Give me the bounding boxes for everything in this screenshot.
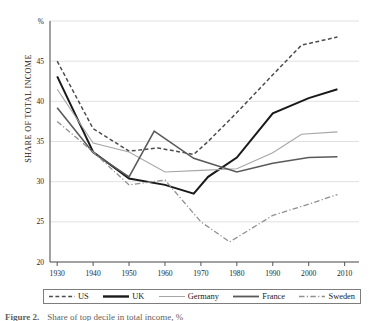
legend-item-sweden[interactable]: Sweden	[299, 292, 355, 301]
series-line-us	[57, 37, 337, 154]
gridlines-group	[50, 21, 359, 262]
figure-container: 202530354045%193019401950196019701980199…	[0, 0, 369, 321]
legend-swatch-germany	[159, 292, 185, 301]
legend-label-france: France	[262, 292, 285, 301]
x-tick-label: 1950	[121, 269, 136, 278]
ticks-group	[57, 262, 344, 266]
legend-swatch-us	[49, 292, 75, 301]
series-line-france	[57, 108, 337, 177]
legend-swatch-sweden	[299, 292, 325, 301]
legend-label-germany: Germany	[188, 292, 219, 301]
legend-item-france[interactable]: France	[233, 292, 285, 301]
x-tick-label: 1980	[229, 269, 244, 278]
y-tick-label: 45	[36, 57, 44, 66]
x-tick-label: 2010	[337, 269, 352, 278]
legend-label-us: US	[78, 292, 89, 301]
chart-svg: 202530354045%193019401950196019701980199…	[0, 0, 369, 285]
caption-label: Figure 2.	[5, 312, 39, 321]
legend-swatch-uk	[103, 292, 129, 301]
axis-labels-group: 202530354045%193019401950196019701980199…	[36, 17, 352, 278]
x-tick-label: 1990	[265, 269, 280, 278]
legend-item-germany[interactable]: Germany	[159, 292, 219, 301]
x-tick-label: 2000	[301, 269, 316, 278]
legend-swatch-france	[233, 292, 259, 301]
series-line-uk	[57, 76, 337, 193]
series-group	[57, 37, 337, 242]
legend-label-uk: UK	[132, 292, 144, 301]
x-tick-label: 1960	[157, 269, 172, 278]
caption-text: Share of top decile in total income, %	[47, 312, 183, 321]
legend-item-uk[interactable]: UK	[103, 292, 144, 301]
y-tick-label: 40	[36, 97, 44, 106]
x-tick-label: 1970	[193, 269, 208, 278]
y-tick-label: 30	[36, 177, 44, 186]
legend-label-sweden: Sweden	[328, 292, 355, 301]
chart-plot-area: 202530354045%193019401950196019701980199…	[0, 0, 369, 285]
x-tick-label: 1930	[50, 269, 65, 278]
y-tick-label: 20	[36, 258, 44, 267]
y-tick-label: 35	[36, 137, 44, 146]
x-tick-label: 1940	[86, 269, 101, 278]
y-axis-title: SHARE OF TOTAL INCOME	[24, 29, 33, 189]
figure-caption: Figure 2.Share of top decile in total in…	[5, 311, 365, 321]
chart-legend: USUKGermanyFranceSweden	[43, 289, 361, 304]
y-tick-label: 25	[36, 217, 44, 226]
legend-item-us[interactable]: US	[49, 292, 89, 301]
y-axis-unit: %	[38, 17, 44, 26]
